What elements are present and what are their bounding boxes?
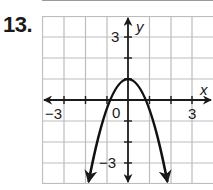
- y-tick-label-3: 3: [111, 28, 119, 45]
- x-tick-label-neg3: −3: [45, 105, 62, 122]
- x-axis-label: x: [199, 81, 208, 98]
- parabola-graph: y x 3 −3 0 3 −3: [0, 0, 213, 190]
- origin-label: 0: [112, 104, 120, 121]
- y-tick-label-neg3: −3: [99, 154, 116, 171]
- x-tick-label-3: 3: [188, 105, 196, 122]
